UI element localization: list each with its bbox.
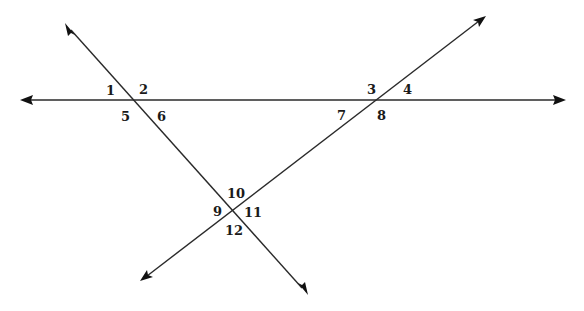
upper-left-arrowhead-icon <box>65 23 75 36</box>
lower-left-arrowhead-icon <box>140 270 153 281</box>
angle-label-4: 4 <box>403 82 412 97</box>
angle-label-8: 8 <box>377 108 386 123</box>
angle-label-6: 6 <box>157 109 166 124</box>
angle-label-9: 9 <box>213 204 222 219</box>
angle-label-10: 10 <box>227 186 245 201</box>
angle-diagram: 1 2 5 6 3 4 7 8 10 9 11 12 <box>0 0 584 311</box>
angle-label-5: 5 <box>121 109 130 124</box>
angle-label-11: 11 <box>244 205 262 220</box>
angle-label-7: 7 <box>337 108 346 123</box>
upper-right-arrowhead-icon <box>473 16 486 27</box>
transversal-down-right <box>65 23 308 295</box>
lower-right-arrowhead-icon <box>298 282 308 295</box>
angle-label-12: 12 <box>225 223 243 238</box>
angle-label-3: 3 <box>367 82 376 97</box>
transversal-up-right <box>140 16 486 281</box>
horizontal-line <box>20 95 566 105</box>
angle-label-1: 1 <box>106 83 115 98</box>
angle-label-2: 2 <box>139 82 148 97</box>
